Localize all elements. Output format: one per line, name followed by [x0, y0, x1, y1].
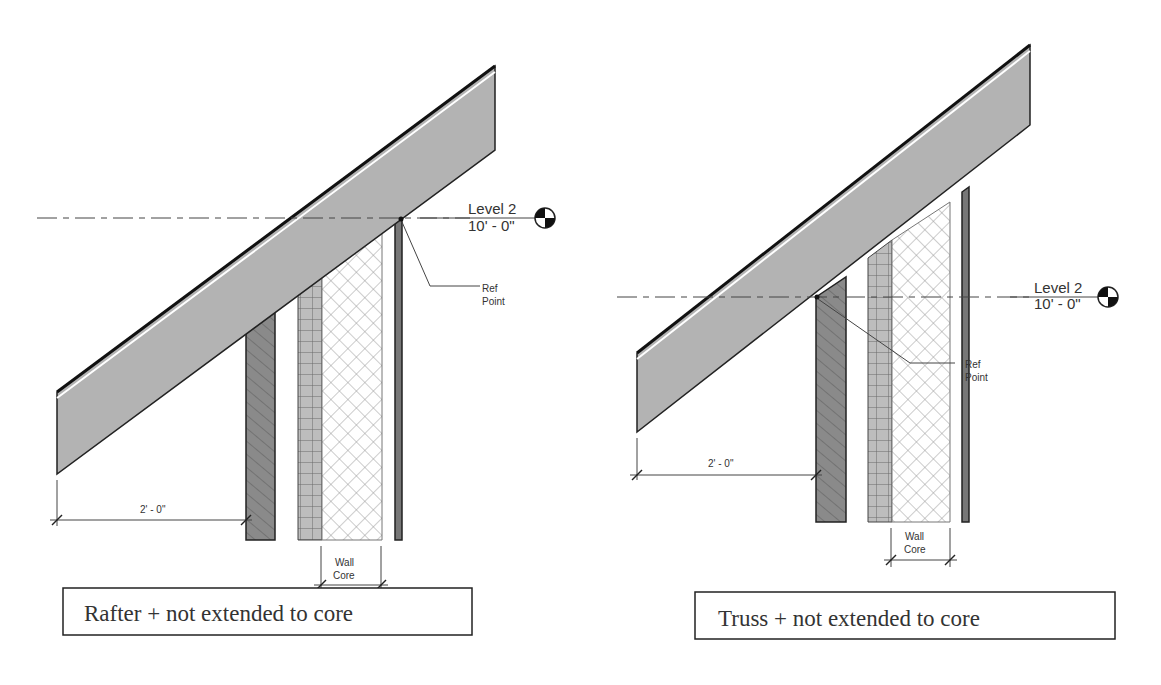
roof-top-highlight	[57, 72, 495, 398]
level-elevation: 10' - 0"	[1034, 295, 1081, 312]
overhang-dimension: 2' - 0"	[50, 480, 252, 526]
wall-interior-finish	[962, 187, 969, 522]
level-name: Level 2	[468, 200, 516, 217]
ref-point-dot	[399, 217, 404, 222]
roof-top-edge	[57, 66, 495, 392]
wall-core-insulation	[892, 202, 950, 522]
level-marker-icon	[1098, 287, 1118, 307]
wall-sheathing-layer	[868, 240, 892, 522]
core-dim-line1: Wall	[335, 557, 354, 568]
ref-point-label-line2: Point	[482, 296, 505, 307]
roof-rafter	[57, 66, 495, 474]
caption-text: Truss + not extended to core	[718, 606, 980, 631]
ref-point-label-line1: Ref	[965, 359, 981, 370]
ref-point-dot	[815, 295, 820, 300]
overhang-dim-text: 2' - 0"	[708, 458, 734, 469]
core-dim-line2: Core	[333, 570, 355, 581]
truss-diagram: Level 2 10' - 0" Ref Point 2' - 0" Wall …	[617, 45, 1118, 639]
level-elevation: 10' - 0"	[468, 217, 515, 234]
caption-text: Rafter + not extended to core	[84, 601, 353, 626]
core-dim-line2: Core	[904, 544, 926, 555]
ref-point-label-line2: Point	[965, 372, 988, 383]
level-marker-icon	[535, 208, 555, 228]
core-dim-line1: Wall	[905, 531, 924, 542]
rafter-diagram: Level 2 10' - 0" Ref Point 2' - 0" Wall …	[37, 66, 555, 635]
level-name: Level 2	[1034, 279, 1082, 296]
wall-interior-finish	[395, 169, 402, 540]
overhang-dimension: 2' - 0"	[630, 438, 822, 480]
core-dimension: Wall Core	[884, 528, 957, 567]
ref-point-label-line1: Ref	[482, 283, 498, 294]
diagram-canvas: Level 2 10' - 0" Ref Point 2' - 0" Wall …	[0, 0, 1161, 685]
wall-siding-layer	[816, 277, 846, 522]
core-dimension: Wall Core	[314, 546, 388, 590]
overhang-dim-text: 2' - 0"	[140, 504, 166, 515]
